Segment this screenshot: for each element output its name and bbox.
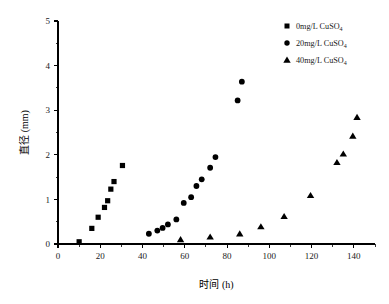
legend-label: 20mg/L CuSO4	[296, 39, 347, 49]
x-tick-label: 120	[305, 251, 319, 261]
legend-entry: 40mg/L CuSO4	[283, 56, 346, 66]
series-square	[77, 163, 126, 244]
data-point-square	[102, 205, 107, 210]
data-point-triangle	[307, 192, 314, 198]
axis-titles-group: 时间 (h)直径 (mm)	[18, 110, 234, 291]
series-circle	[146, 79, 245, 237]
data-point-triangle	[349, 133, 356, 139]
legend-entry: 0mg/L CuSO4	[285, 22, 343, 32]
data-point-square	[120, 163, 125, 168]
data-point-circle	[199, 176, 205, 182]
data-point-circle	[207, 165, 213, 171]
y-tick-labels: 012345	[46, 16, 51, 249]
data-point-circle	[160, 225, 166, 231]
y-tick-label: 4	[46, 61, 51, 71]
data-point-square	[105, 198, 110, 203]
data-point-triangle	[236, 230, 243, 236]
data-point-square	[89, 226, 94, 231]
data-point-triangle	[353, 114, 360, 120]
x-axis-title: 时间 (h)	[199, 278, 233, 291]
x-tick-label: 80	[223, 251, 233, 261]
chart-figure: 020406080100120140 012345 0mg/L CuSO420m…	[0, 0, 389, 304]
data-point-circle	[146, 231, 152, 237]
y-axis-title: 直径 (mm)	[18, 110, 31, 155]
x-tick-label: 60	[180, 251, 190, 261]
x-tick-label: 0	[56, 251, 61, 261]
data-point-square	[111, 179, 116, 184]
x-tick-label: 20	[96, 251, 106, 261]
legend-marker-triangle	[283, 57, 290, 63]
scatter-plot: 020406080100120140 012345 0mg/L CuSO420m…	[0, 0, 389, 304]
data-series-group	[77, 79, 361, 245]
axes-group	[58, 21, 375, 244]
legend-entry: 20mg/L CuSO4	[284, 39, 346, 49]
data-point-triangle	[280, 213, 287, 219]
data-point-circle	[235, 97, 241, 103]
data-point-triangle	[340, 150, 347, 156]
data-point-triangle	[333, 159, 340, 165]
series-triangle	[177, 114, 361, 242]
y-tick-label: 0	[46, 239, 51, 249]
data-point-circle	[213, 154, 219, 160]
legend-marker-square	[285, 24, 290, 29]
chart-legend: 0mg/L CuSO420mg/L CuSO440mg/L CuSO4	[283, 22, 346, 66]
data-point-circle	[165, 221, 171, 227]
legend-label: 40mg/L CuSO4	[296, 56, 347, 66]
y-tick-label: 2	[46, 150, 51, 160]
x-tick-labels: 020406080100120140	[56, 251, 361, 261]
data-point-triangle	[257, 223, 264, 229]
data-point-circle	[194, 183, 200, 189]
data-point-circle	[188, 194, 194, 200]
data-point-square	[77, 239, 82, 244]
x-tick-label: 100	[263, 251, 277, 261]
data-point-triangle	[206, 233, 213, 239]
data-point-circle	[154, 228, 160, 234]
data-point-triangle	[177, 236, 184, 242]
data-point-circle	[239, 79, 245, 85]
y-tick-label: 5	[46, 16, 51, 26]
data-point-circle	[181, 200, 187, 206]
tick-marks-group	[54, 21, 375, 248]
legend-label: 0mg/L CuSO4	[296, 22, 343, 32]
legend-marker-circle	[284, 40, 289, 45]
data-point-square	[96, 215, 101, 220]
y-tick-label: 1	[46, 195, 51, 205]
x-tick-label: 40	[138, 251, 148, 261]
data-point-circle	[173, 217, 179, 223]
data-point-square	[108, 187, 113, 192]
x-tick-label: 140	[347, 251, 361, 261]
y-tick-label: 3	[46, 105, 51, 115]
